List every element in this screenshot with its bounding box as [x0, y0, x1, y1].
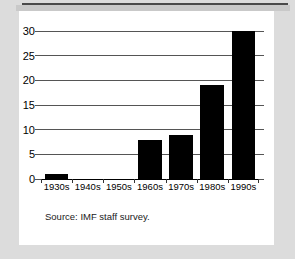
y-tick-mark-right-0: [259, 179, 264, 180]
x-tick-label-1970s: 1970s: [166, 182, 197, 192]
x-tick-label-1960s: 1960s: [134, 182, 165, 192]
bar-slot-1940s: [72, 31, 103, 179]
y-tick-label-5: 5: [29, 149, 35, 160]
bar-slot-1990s: [228, 31, 259, 179]
figure-page: 051015202530 1930s1940s1950s1960s1970s19…: [0, 0, 295, 259]
chart-panel: 051015202530 1930s1940s1950s1960s1970s19…: [19, 11, 274, 245]
bar-group: [41, 31, 259, 179]
bar-slot-1950s: [103, 31, 134, 179]
y-tick-mark-right-25: [259, 55, 264, 56]
source-note: Source: IMF staff survey.: [45, 211, 150, 222]
y-tick-mark-right-30: [259, 31, 264, 32]
bar-1990s: [232, 31, 256, 179]
bar-1960s: [138, 140, 162, 179]
x-tick-label-1990s: 1990s: [228, 182, 259, 192]
y-tick-mark-right-10: [259, 129, 264, 130]
bar-1930s: [45, 174, 69, 179]
bar-slot-1970s: [166, 31, 197, 179]
x-tick-label-1950s: 1950s: [103, 182, 134, 192]
bar-1970s: [169, 135, 193, 179]
y-tick-label-0: 0: [29, 174, 35, 185]
y-tick-label-10: 10: [23, 124, 35, 135]
bar-1980s: [200, 85, 224, 179]
y-tick-label-30: 30: [23, 26, 35, 37]
y-tick-mark-right-5: [259, 154, 264, 155]
y-tick-label-25: 25: [23, 50, 35, 61]
x-tick-label-1980s: 1980s: [197, 182, 228, 192]
bar-slot-1960s: [134, 31, 165, 179]
y-tick-mark-right-15: [259, 105, 264, 106]
y-tick-label-15: 15: [23, 100, 35, 111]
bar-slot-1930s: [41, 31, 72, 179]
plot-area: 051015202530: [41, 31, 259, 179]
y-tick-mark-right-20: [259, 80, 264, 81]
x-tick-label-1940s: 1940s: [72, 182, 103, 192]
bar-slot-1980s: [197, 31, 228, 179]
x-axis-tick-labels: 1930s1940s1950s1960s1970s1980s1990s: [41, 182, 259, 192]
y-tick-label-20: 20: [23, 75, 35, 86]
x-tick-label-1930s: 1930s: [41, 182, 72, 192]
top-rule: [22, 3, 288, 5]
